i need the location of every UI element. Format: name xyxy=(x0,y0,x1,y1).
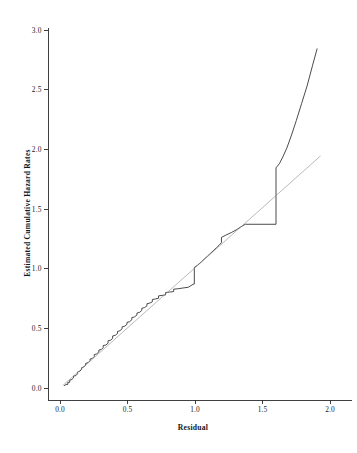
x-tick-label: 2.0 xyxy=(325,405,335,414)
y-tick-label: 1.0 xyxy=(32,264,42,273)
cumulative-hazard-chart: 0.00.51.01.52.02.53.00.00.51.01.52.0 Res… xyxy=(0,0,357,453)
tick-label-layer: 0.00.51.01.52.02.53.00.00.51.01.52.0 xyxy=(32,26,335,415)
y-tick-label: 3.0 xyxy=(32,26,42,35)
y-axis-title: Estimated Cumulative Hazard Rates xyxy=(23,149,32,276)
x-tick-label: 1.5 xyxy=(258,405,268,414)
x-tick-label: 1.0 xyxy=(190,405,200,414)
y-tick-label: 2.0 xyxy=(32,145,42,154)
hazard-step-curve xyxy=(64,49,317,386)
axis-layer xyxy=(44,28,352,404)
y-tick-label: 1.5 xyxy=(32,205,42,214)
x-tick-label: 0.5 xyxy=(123,405,133,414)
x-axis-title: Residual xyxy=(178,423,208,432)
x-tick-label: 0.0 xyxy=(55,405,65,414)
reference-line xyxy=(63,156,321,386)
chart-canvas: 0.00.51.01.52.02.53.00.00.51.01.52.0 Res… xyxy=(0,0,357,453)
data-series-layer xyxy=(63,49,321,386)
y-tick-label: 0.0 xyxy=(32,384,42,393)
y-tick-label: 2.5 xyxy=(32,85,42,94)
plot-area: 0.00.51.01.52.02.53.00.00.51.01.52.0 xyxy=(32,26,352,415)
y-tick-label: 0.5 xyxy=(32,324,42,333)
